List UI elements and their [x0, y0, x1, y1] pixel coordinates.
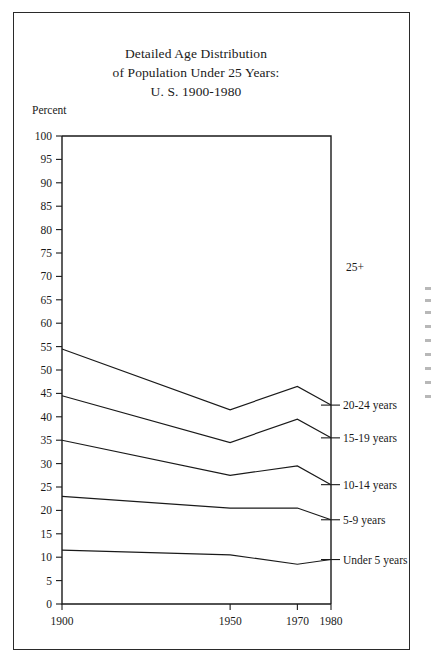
series-line: [62, 550, 331, 564]
y-tick-label: 10: [41, 551, 53, 563]
x-tick-label: 1970: [286, 615, 309, 627]
y-tick-label: 40: [41, 411, 53, 423]
series-line: [62, 349, 331, 410]
y-tick-label: 15: [41, 528, 53, 540]
x-axis-ticks: 1900195019701980: [51, 604, 343, 627]
y-tick-label: 75: [41, 247, 53, 259]
plot-axes: [62, 136, 331, 604]
series-labels: 20-24 years15-19 years10-14 years5-9 yea…: [321, 261, 408, 566]
y-tick-label: 20: [41, 504, 53, 516]
y-tick-label: 5: [46, 575, 52, 587]
y-tick-label: 70: [41, 270, 53, 282]
series-label: 5-9 years: [343, 514, 386, 527]
y-tick-label: 55: [41, 341, 53, 353]
series-label: 15-19 years: [343, 432, 397, 445]
axis-left-bottom: [62, 136, 331, 604]
y-tick-label: 30: [41, 458, 53, 470]
y-tick-label: 25: [41, 481, 53, 493]
series-label: 10-14 years: [343, 479, 397, 492]
axis-top-right: [62, 136, 331, 604]
series-label: 20-24 years: [343, 399, 397, 412]
y-tick-label: 45: [41, 387, 53, 399]
series-label: Under 5 years: [343, 554, 408, 567]
series-lines: [62, 349, 331, 564]
y-tick-label: 90: [41, 177, 53, 189]
series-line: [62, 440, 331, 484]
y-tick-label: 95: [41, 153, 53, 165]
chart: Detailed Age Distribution of Population …: [0, 0, 445, 668]
region-label: 25+: [346, 261, 364, 273]
y-axis-ticks: 0510152025303540455055606570758085909510…: [35, 130, 62, 610]
x-tick-label: 1950: [219, 615, 242, 627]
y-tick-label: 65: [41, 294, 53, 306]
x-tick-label: 1980: [320, 615, 343, 627]
y-tick-label: 100: [35, 130, 53, 142]
y-tick-label: 50: [41, 364, 53, 376]
y-tick-label: 80: [41, 224, 53, 236]
series-line: [62, 396, 331, 443]
y-tick-label: 35: [41, 434, 53, 446]
x-tick-label: 1900: [51, 615, 74, 627]
plot-canvas: 0510152025303540455055606570758085909510…: [0, 0, 445, 668]
y-tick-label: 60: [41, 317, 53, 329]
series-line: [62, 496, 331, 519]
y-tick-label: 85: [41, 200, 53, 212]
y-tick-label: 0: [46, 598, 52, 610]
